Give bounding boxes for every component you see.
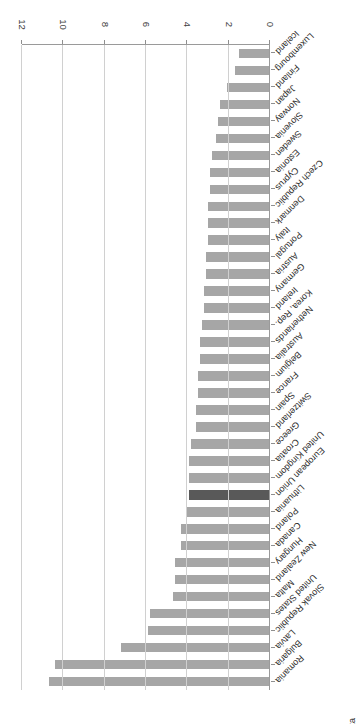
bar (189, 490, 270, 500)
bar (189, 473, 270, 483)
gridline-12 (21, 45, 22, 690)
bar-row: France (22, 388, 270, 398)
bar-row: Estonia (22, 168, 270, 178)
category-tick (271, 239, 275, 240)
bar-row: Spain (22, 405, 270, 415)
bar (206, 252, 270, 262)
bar-row: Slovak Republic (22, 626, 270, 636)
category-tick (271, 545, 275, 546)
x-tick-10 (62, 40, 63, 44)
bar (121, 643, 270, 653)
bar-row: Norway (22, 117, 270, 127)
bar (239, 49, 270, 59)
bar (200, 354, 270, 364)
bar-row: Croatia (22, 456, 270, 466)
category-tick (271, 103, 275, 104)
category-tick (271, 375, 275, 376)
category-tick (271, 681, 275, 682)
category-tick (271, 647, 275, 648)
bar-row: Korea, Rep. (22, 320, 270, 330)
bar (208, 235, 270, 245)
bar-row: Bulgaria (22, 660, 270, 670)
bar (175, 575, 270, 585)
bar-row: Italy (22, 235, 270, 245)
category-tick (271, 596, 275, 597)
category-tick (271, 256, 275, 257)
bar (150, 609, 270, 619)
x-tick-4 (186, 40, 187, 44)
category-tick (271, 222, 275, 223)
bar-row: Slovenia (22, 134, 270, 144)
bar-row: Sweden (22, 151, 270, 161)
bar (148, 626, 270, 636)
category-tick (271, 53, 275, 54)
bar (202, 320, 270, 330)
x-tick-2 (228, 40, 229, 44)
category-tick (271, 205, 275, 206)
bar (181, 541, 270, 551)
bar-row: Cyprus (22, 185, 270, 195)
bar-row: Hungary (22, 558, 270, 568)
category-tick (271, 460, 275, 461)
x-tick-8 (104, 40, 105, 44)
x-axis-line (22, 44, 270, 45)
bar-row: Lithuania (22, 507, 270, 517)
category-tick (271, 477, 275, 478)
source-note: Source: World Development Indicators 201… (346, 718, 357, 724)
category-tick (271, 409, 275, 410)
bar (200, 337, 270, 347)
category-tick (271, 579, 275, 580)
bar-row: Australia (22, 354, 270, 364)
bar-row: Portugal (22, 252, 270, 262)
bar (189, 456, 270, 466)
gridline-0 (269, 45, 270, 690)
x-tick-label: 2 (223, 22, 234, 27)
gridline-4 (186, 45, 187, 690)
gridline-6 (145, 45, 146, 690)
bar-row: Greece (22, 439, 270, 449)
bar (218, 117, 270, 127)
x-tick-12 (21, 40, 22, 44)
bar (55, 660, 270, 670)
bar-row: Ireland (22, 303, 270, 313)
category-tick (271, 664, 275, 665)
bar-row: Luxembourg (22, 66, 270, 76)
bar-row: United States (22, 609, 270, 619)
bar-row: Switzerland (22, 422, 270, 432)
x-tick-label: 8 (99, 22, 110, 27)
bar (204, 286, 270, 296)
category-tick (271, 494, 275, 495)
category-tick (271, 528, 275, 529)
gridline-2 (228, 45, 229, 690)
category-tick (271, 290, 275, 291)
bar (187, 507, 270, 517)
bar (173, 592, 270, 602)
bar (204, 303, 270, 313)
bar-row: Denmark (22, 218, 270, 228)
bar-row: Finland (22, 83, 270, 93)
x-tick-6 (145, 40, 146, 44)
category-tick (271, 341, 275, 342)
bar-row: United Kingdom (22, 473, 270, 483)
bar (198, 371, 270, 381)
bar (212, 151, 270, 161)
x-tick-label: 10 (58, 19, 69, 30)
bar (175, 558, 270, 568)
x-tick-label: 4 (182, 22, 193, 27)
bar-row: Iceland (22, 49, 270, 59)
bar-series: RomaniaBulgariaLatviaSlovak RepublicUnit… (22, 45, 270, 690)
chart-canvas: RomaniaBulgariaLatviaSlovak RepublicUnit… (0, 0, 359, 724)
category-tick (271, 392, 275, 393)
bar (181, 524, 270, 534)
plot-area: RomaniaBulgariaLatviaSlovak RepublicUnit… (22, 45, 270, 690)
x-tick-label: 6 (141, 22, 152, 27)
category-tick (271, 324, 275, 325)
category-tick (271, 443, 275, 444)
bar (208, 202, 270, 212)
category-tick (271, 171, 275, 172)
bar (191, 439, 270, 449)
bar-row: Canada (22, 541, 270, 551)
bar-row: New Zealand (22, 575, 270, 585)
bar (196, 405, 270, 415)
bar-row: Malta (22, 592, 270, 602)
